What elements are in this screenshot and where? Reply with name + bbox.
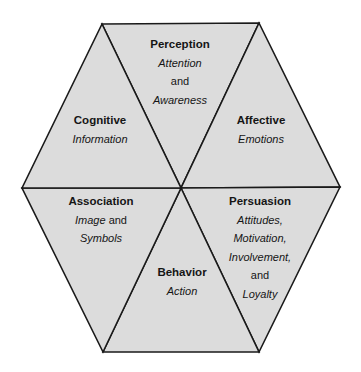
- segment-text: Motivation,: [229, 229, 291, 248]
- segment-title: Behavior: [157, 263, 206, 282]
- segment-text-italic: Image: [75, 214, 106, 226]
- segment-text: and: [150, 72, 209, 91]
- label-association: Association Image and Symbols: [68, 192, 133, 248]
- segment-title: Persuasion: [229, 192, 291, 211]
- label-persuasion: Persuasion Attitudes, Motivation, Involv…: [229, 192, 291, 304]
- label-perception: Perception Attention and Awareness: [150, 35, 209, 109]
- label-affective: Affective Emotions: [237, 111, 286, 148]
- segment-text: Image and: [68, 211, 133, 230]
- segment-text: Involvement,: [229, 248, 291, 267]
- segment-title: Affective: [237, 111, 286, 130]
- segment-text: Loyalty: [229, 285, 291, 304]
- segment-text: Emotions: [237, 130, 286, 149]
- segment-title: Cognitive: [72, 111, 127, 130]
- segment-title: Association: [68, 192, 133, 211]
- segment-text: Attention: [150, 54, 209, 73]
- segment-text: Symbols: [68, 229, 133, 248]
- label-behavior: Behavior Action: [157, 263, 206, 300]
- segment-text: Action: [157, 282, 206, 301]
- segment-text: Attitudes,: [229, 211, 291, 230]
- segment-text: Awareness: [150, 91, 209, 110]
- segment-text-suffix: and: [106, 214, 127, 226]
- label-cognitive: Cognitive Information: [72, 111, 127, 148]
- segment-text: Information: [72, 130, 127, 149]
- segment-text: and: [229, 266, 291, 285]
- segment-title: Perception: [150, 35, 209, 54]
